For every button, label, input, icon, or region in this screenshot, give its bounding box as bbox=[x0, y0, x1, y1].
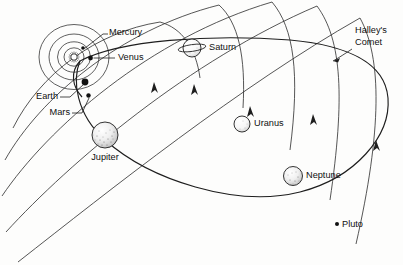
solar-system-svg: Mercury Venus Earth Mars Jupiter Saturn … bbox=[0, 0, 403, 265]
orbit-jupiter bbox=[13, 22, 160, 128]
orbit-pluto-lower bbox=[356, 18, 376, 244]
label-pluto: Pluto bbox=[342, 219, 363, 229]
planet-mercury bbox=[81, 46, 85, 50]
label-uranus: Uranus bbox=[254, 118, 284, 128]
planet-uranus bbox=[234, 116, 250, 132]
orbit-direction-arrows bbox=[151, 82, 380, 151]
label-halleys-comet-line1: Halley's bbox=[355, 25, 387, 35]
planet-neptune bbox=[284, 167, 303, 186]
label-venus: Venus bbox=[118, 52, 144, 62]
label-neptune: Neptune bbox=[306, 170, 341, 180]
planet-mars bbox=[86, 93, 90, 97]
orbit-saturn-lower bbox=[219, 5, 244, 108]
label-jupiter: Jupiter bbox=[91, 152, 119, 162]
planet-label-group: Mercury Venus Earth Mars Jupiter Saturn … bbox=[36, 25, 387, 229]
label-mars: Mars bbox=[50, 107, 71, 117]
arrow-jupiter-icon bbox=[151, 82, 158, 93]
arrow-saturn-icon bbox=[191, 84, 198, 95]
solar-system-diagram: Mercury Venus Earth Mars Jupiter Saturn … bbox=[0, 0, 403, 265]
arrow-uranus-icon bbox=[247, 106, 254, 117]
arrow-pluto-icon bbox=[373, 140, 380, 151]
planet-jupiter bbox=[92, 122, 118, 148]
label-earth: Earth bbox=[36, 91, 58, 101]
arrow-neptune-icon bbox=[310, 114, 317, 125]
label-mercury: Mercury bbox=[109, 27, 143, 37]
planet-earth bbox=[82, 79, 89, 86]
planet-pluto bbox=[335, 222, 339, 226]
planet-venus bbox=[88, 56, 93, 61]
sun-starburst-icon bbox=[69, 52, 80, 63]
label-saturn: Saturn bbox=[209, 42, 236, 52]
planet-saturn bbox=[178, 39, 207, 57]
label-halleys-comet-line2: Comet bbox=[355, 37, 383, 47]
